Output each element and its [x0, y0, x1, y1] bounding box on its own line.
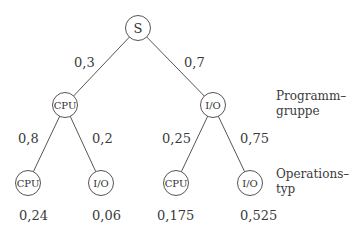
level-label-line: Operations–	[276, 167, 349, 182]
level-label-programmgruppe: Programm– gruppe	[276, 89, 346, 119]
node-label: I/O	[205, 100, 221, 111]
leaf-node-cpu-io: I/O	[88, 170, 114, 196]
root-node-label: S	[134, 21, 143, 36]
edge-prob-root-io: 0,7	[184, 55, 205, 70]
result-io-cpu: 0,175	[157, 208, 194, 223]
level1-node-io: I/O	[200, 92, 226, 118]
level-label-line: gruppe	[276, 104, 346, 119]
edge-prob-io-cpu: 0,25	[162, 131, 191, 146]
root-node: S	[125, 15, 151, 41]
edge-prob-cpu-io: 0,2	[92, 131, 113, 146]
node-label: CPU	[165, 178, 188, 189]
level-label-line: Programm–	[276, 89, 346, 104]
leaf-node-cpu-cpu: CPU	[15, 170, 41, 196]
node-label: I/O	[93, 178, 109, 189]
level1-node-cpu: CPU	[52, 92, 78, 118]
node-label: CPU	[54, 100, 77, 111]
edge-prob-io-io: 0,75	[240, 131, 269, 146]
level-label-line: typ	[276, 182, 349, 197]
leaf-node-io-io: I/O	[237, 170, 263, 196]
result-cpu-cpu: 0,24	[19, 208, 48, 223]
result-cpu-io: 0,06	[92, 208, 121, 223]
edge-prob-cpu-cpu: 0,8	[18, 131, 39, 146]
edge-prob-root-cpu: 0,3	[74, 55, 95, 70]
leaf-node-io-cpu: CPU	[163, 170, 189, 196]
level-label-operationstyp: Operations– typ	[276, 167, 349, 197]
result-io-io: 0,525	[240, 208, 277, 223]
node-label: CPU	[17, 178, 40, 189]
node-label: I/O	[242, 178, 258, 189]
